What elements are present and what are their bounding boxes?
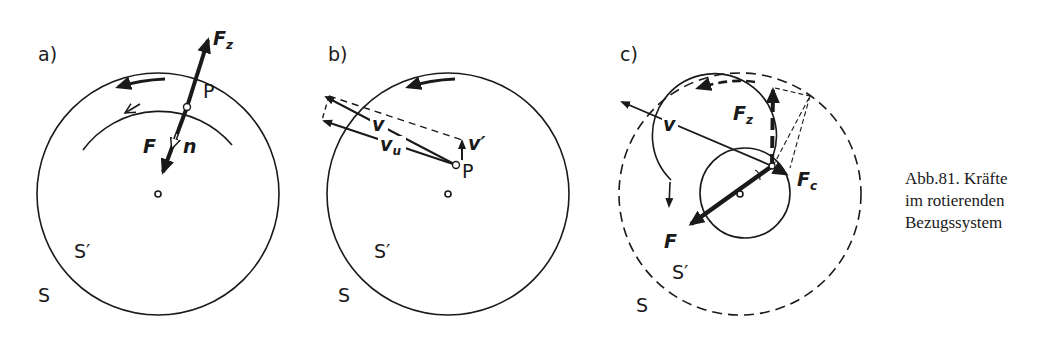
label-v-prime: v′ bbox=[468, 132, 485, 154]
center-point bbox=[155, 191, 161, 197]
label-v: v bbox=[663, 113, 676, 135]
label-fz: Fz bbox=[733, 102, 754, 127]
panel-c: c) v Fz Fc F S′ S bbox=[619, 43, 861, 316]
point-p bbox=[453, 162, 460, 169]
figure-caption: Abb.81. Kräfte im rotierenden Bezugssyst… bbox=[905, 168, 1035, 234]
panel-b: b) v vu v′ P S′ S bbox=[322, 43, 569, 315]
caption-line-1: Abb.81. Kräfte bbox=[905, 168, 1035, 190]
circle-inner bbox=[700, 148, 790, 238]
label-v: v bbox=[372, 113, 385, 135]
label-f: F bbox=[664, 230, 677, 252]
construction-line bbox=[775, 88, 810, 96]
panel-b-label: b) bbox=[328, 43, 347, 65]
label-p: P bbox=[462, 160, 473, 182]
vector-v bbox=[622, 102, 772, 166]
construction-line bbox=[773, 96, 810, 166]
label-p: P bbox=[203, 80, 214, 102]
arc-s-prime bbox=[83, 111, 232, 150]
arc-direction-icon bbox=[125, 104, 140, 113]
panel-a: a) Fz P F n S′ S bbox=[37, 27, 279, 315]
rotation-arrow-icon bbox=[698, 81, 755, 88]
label-s-prime: S′ bbox=[374, 240, 390, 262]
label-f: F bbox=[143, 135, 156, 157]
caption-line-2: im rotierenden bbox=[905, 190, 1035, 212]
label-fz: Fz bbox=[213, 27, 234, 52]
panel-a-label: a) bbox=[38, 43, 57, 65]
panel-c-label: c) bbox=[620, 43, 638, 65]
construction-line bbox=[790, 96, 810, 168]
center-point bbox=[737, 191, 743, 197]
label-s: S bbox=[636, 294, 648, 316]
label-s-prime: S′ bbox=[74, 240, 90, 262]
label-fc: Fc bbox=[797, 168, 817, 193]
trajectory-arrow-icon bbox=[669, 182, 670, 206]
center-point bbox=[445, 191, 451, 197]
vector-fz bbox=[772, 90, 773, 166]
caption-line-3: Bezugssystem bbox=[905, 212, 1035, 234]
parallelogram-left bbox=[322, 96, 329, 120]
label-s-prime: S′ bbox=[672, 261, 688, 283]
rotating-frame-figure: a) Fz P F n S′ S b) v bbox=[0, 0, 1041, 340]
label-n: n bbox=[183, 135, 197, 157]
label-s: S bbox=[38, 284, 50, 306]
label-s: S bbox=[338, 284, 350, 306]
point-p bbox=[184, 104, 191, 111]
point-p bbox=[769, 163, 775, 169]
rotation-arrow-icon bbox=[118, 79, 165, 87]
rotation-arrow-icon bbox=[408, 79, 455, 87]
